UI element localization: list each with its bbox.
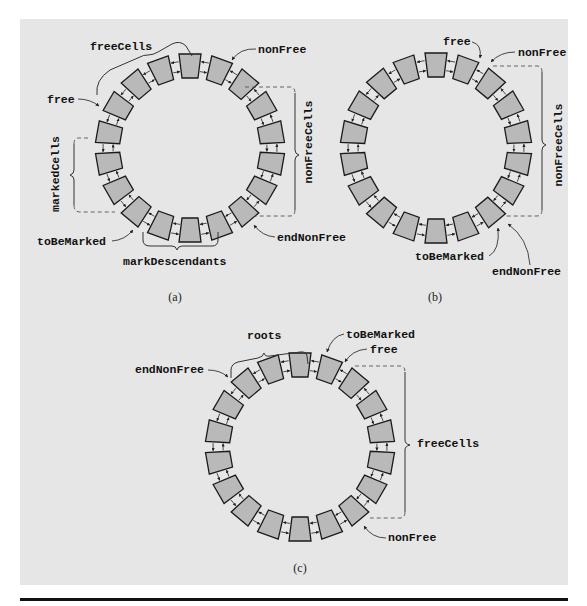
label-nonfreecells: nonFreeCells <box>552 104 565 187</box>
label-freecells: freeCells <box>90 40 152 53</box>
label-free: free <box>47 93 75 106</box>
subfigure-caption: (c) <box>293 561 306 575</box>
label-nonfree: nonFree <box>258 43 306 56</box>
list-cell <box>289 353 311 377</box>
list-cell <box>179 218 201 242</box>
label-tobemarked: toBeMarked <box>37 235 106 248</box>
list-cell <box>425 53 447 77</box>
label-endnonfree: endNonFree <box>135 363 204 376</box>
label-nonfree: nonFree <box>518 46 566 59</box>
label-nonfree: nonFree <box>388 531 436 544</box>
list-cell <box>289 517 311 541</box>
label-freecells: freeCells <box>417 437 479 450</box>
label-roots: roots <box>247 329 282 342</box>
figure-panel-background <box>20 19 568 585</box>
diagram-figure: freeCellsnonFreefreetoBeMarkedendNonFree… <box>0 0 587 606</box>
label-tobemarked: toBeMarked <box>415 250 484 263</box>
label-nonfreecells: nonFreeCells <box>302 101 315 184</box>
label-tobemarked: toBeMarked <box>346 328 415 341</box>
label-endnonfree: endNonFree <box>492 265 561 278</box>
label-free: free <box>443 35 471 48</box>
label-endnonfree: endNonFree <box>277 231 346 244</box>
label-markedcells: markedCells <box>49 136 62 212</box>
subfigure-caption: (b) <box>428 290 442 304</box>
list-cell <box>425 219 447 243</box>
label-free: free <box>370 343 398 356</box>
list-cell <box>179 54 201 78</box>
bottom-rule-divider <box>20 598 568 601</box>
label-markdescendants: markDescendants <box>123 255 227 268</box>
subfigure-caption: (a) <box>168 290 181 304</box>
